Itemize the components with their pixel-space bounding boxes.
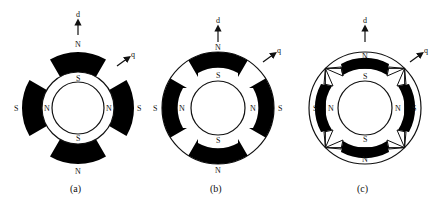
figure-caption: (b) <box>210 183 222 195</box>
magnet-blocks <box>22 52 134 164</box>
inner-label-top: S <box>216 71 220 80</box>
inner-label-left: N <box>44 104 50 113</box>
q-axis-label: q <box>424 46 428 55</box>
inner-label-left: N <box>328 104 334 113</box>
inner-label-right: N <box>395 104 401 113</box>
outer-label-right: S <box>412 104 416 113</box>
figure-caption: (c) <box>357 183 368 195</box>
inner-label-bottom: S <box>76 134 80 143</box>
outer-label-bottom: N <box>75 167 81 176</box>
inner-label-bottom: S <box>216 136 220 145</box>
outer-label-right: S <box>137 104 141 113</box>
q-axis-label: q <box>131 50 135 59</box>
d-axis-label: d <box>76 10 80 19</box>
outer-label-left: S <box>153 104 157 113</box>
q-axis-label: q <box>277 46 281 55</box>
outer-label-left: S <box>313 104 317 113</box>
inner-label-top: S <box>76 74 80 83</box>
diagram-canvas: d q N N S S S S N N (a) d q N N S S S S … <box>0 0 440 208</box>
outer-label-bottom: N <box>362 155 368 164</box>
inner-label-right: N <box>250 104 256 113</box>
figure-b: d q N N S S S S N N (b) <box>153 16 282 195</box>
shaft-circle <box>52 82 104 134</box>
inner-label-top: S <box>363 72 367 81</box>
inner-label-left: N <box>179 104 185 113</box>
outer-label-top: N <box>362 52 368 61</box>
d-axis-label: d <box>216 16 220 25</box>
inner-label-bottom: S <box>363 135 367 144</box>
q-axis-arrow <box>410 54 421 62</box>
d-axis-label: d <box>363 16 367 25</box>
figure-a: d q N N S S S S N N (a) <box>14 10 141 195</box>
outer-label-top: N <box>215 43 221 52</box>
figure-c: d q N N S S S S N N (c) <box>309 16 428 195</box>
outer-label-left: S <box>14 104 18 113</box>
outer-label-right: S <box>278 104 282 113</box>
inner-label-right: N <box>106 104 112 113</box>
outer-label-top: N <box>75 40 81 49</box>
q-axis-arrow <box>263 54 274 62</box>
figure-caption: (a) <box>70 183 81 195</box>
q-axis-arrow <box>117 58 128 66</box>
outer-label-bottom: N <box>215 166 221 175</box>
